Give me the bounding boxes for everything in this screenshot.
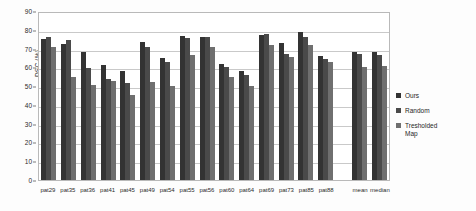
bar-mean-tresholded [362,67,367,180]
x-axis-tick-pat56: pat56 [197,182,217,196]
bar-group-pat49 [138,13,158,180]
bar-pat41-tresholded [111,81,116,180]
x-axis-tick-pat85: pat85 [296,182,316,196]
bar-group-pat54 [158,13,178,180]
bar-group-pat41 [98,13,118,180]
y-axis-tick-mark [33,87,36,88]
legend-swatch-icon [396,108,401,113]
y-axis-tick-mark [33,49,36,50]
x-axis-tick-pat54: pat54 [157,182,177,196]
x-axis-tick-pat41: pat41 [98,182,118,196]
bar-group-pat35 [59,13,79,180]
bar-group-pat56 [197,13,217,180]
bar-pat29-tresholded [51,47,56,180]
chart-legend: OursRandomTresholded Map [396,92,474,145]
y-axis-tick-labels: 0102030405060708090 [0,12,36,181]
bar-group-pat69 [256,13,276,180]
y-axis-tick-mark [33,12,36,13]
legend-item-random[interactable]: Random [396,107,474,115]
bar-pat88-tresholded [328,62,333,180]
y-axis-tick-50: 50 [25,84,32,91]
bar-pat35-tresholded [71,77,76,180]
y-axis-tick-mark [33,181,36,182]
y-axis-tick-mark [33,143,36,144]
x-axis-tick-pat29: pat29 [38,182,58,196]
y-axis-tick-mark [33,68,36,69]
bar-pat73-tresholded [289,57,294,180]
bar-group-pat55 [177,13,197,180]
bar-group-pat45 [118,13,138,180]
bar-group-pat36 [79,13,99,180]
bar-pat54-tresholded [170,86,175,180]
x-axis-tick-labels: pat29pat35pat36pat41pat45pat49pat54pat55… [38,182,390,196]
bar-group-pat64 [237,13,257,180]
bar-pat64-tresholded [249,86,254,180]
y-axis-tick-60: 60 [25,65,32,72]
group-separator [335,13,349,180]
y-axis-tick-40: 40 [25,103,32,110]
bar-group-pat60 [217,13,237,180]
legend-swatch-icon [396,93,401,98]
y-axis-tick-mark [33,162,36,163]
bar-groups [39,13,389,180]
plot-area [38,12,390,181]
bar-group-pat88 [316,13,336,180]
bar-pat56-tresholded [210,47,215,180]
bar-median-tresholded [382,66,387,180]
x-axis-tick-pat73: pat73 [277,182,297,196]
legend-item-tresholded[interactable]: Tresholded Map [396,122,474,138]
legend-item-ours[interactable]: Ours [396,92,474,100]
y-axis-tick-20: 20 [25,140,32,147]
bar-pat36-tresholded [91,85,96,180]
bar-pat60-tresholded [229,77,234,180]
bar-pat85-tresholded [308,45,313,180]
bar-group-median [369,13,389,180]
y-axis-tick-70: 70 [25,46,32,53]
tick-separator [336,182,350,196]
y-axis-tick-mark [33,105,36,106]
bar-pat55-tresholded [190,55,195,180]
x-axis-tick-pat88: pat88 [316,182,336,196]
y-axis-tick-mark [33,30,36,31]
x-axis-tick-pat49: pat49 [137,182,157,196]
x-axis-tick-pat55: pat55 [177,182,197,196]
x-axis-tick-pat35: pat35 [58,182,78,196]
y-axis-tick-mark [33,124,36,125]
x-axis-tick-pat60: pat60 [217,182,237,196]
legend-label: Ours [405,92,419,100]
x-axis-tick-mean: mean [350,182,370,196]
y-axis-tick-80: 80 [25,28,32,35]
bar-chart-figure: DSC (%) 0102030405060708090 pat29pat35pa… [0,0,476,211]
x-axis-tick-median: median [370,182,390,196]
bar-group-pat85 [296,13,316,180]
bar-group-mean [349,13,369,180]
legend-swatch-icon [396,123,401,128]
x-axis-tick-pat64: pat64 [237,182,257,196]
x-axis-tick-pat69: pat69 [257,182,277,196]
y-axis-tick-10: 10 [25,159,32,166]
bar-pat69-tresholded [269,45,274,180]
y-axis-tick-0: 0 [28,178,32,185]
y-axis-tick-90: 90 [25,9,32,16]
bar-pat49-tresholded [150,82,155,180]
bar-pat45-tresholded [130,95,135,180]
legend-label: Tresholded Map [405,122,437,138]
bar-group-pat73 [276,13,296,180]
y-axis-tick-30: 30 [25,121,32,128]
bar-group-pat29 [39,13,59,180]
legend-label: Random [405,107,430,115]
x-axis-tick-pat45: pat45 [118,182,138,196]
x-axis-tick-pat36: pat36 [78,182,98,196]
